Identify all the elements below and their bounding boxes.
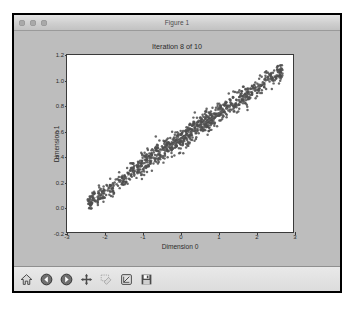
scatter-plot-svg [67,55,293,232]
y-tick-label: 0.2 [56,180,67,186]
y-tick-label: 0.8 [56,103,67,109]
plot-title: Iteration 8 of 10 [14,42,340,51]
navigation-toolbar [14,266,340,291]
y-tick-label: 1.0 [56,78,67,84]
x-tick-label: 3 [293,232,296,240]
x-tick-label: 2 [255,232,258,240]
plot-axes[interactable]: 1.2 1.0 0.8 0.6 0.4 0.2 0.0 -0.2 -3 -2 -… [66,54,294,233]
figure-window: Figure 1 Iteration 8 of 10 1.2 1.0 0.8 0… [12,13,342,293]
x-axis-label: Dimension 0 [66,243,294,250]
scatter-points [87,64,284,210]
save-disk-icon[interactable] [138,271,155,288]
window-title: Figure 1 [14,15,340,30]
forward-arrow-icon[interactable] [58,271,75,288]
y-tick-label: 1.2 [56,52,67,58]
x-tick-label: 0 [179,232,182,240]
x-tick-label: -2 [102,232,107,240]
back-arrow-icon[interactable] [38,271,55,288]
x-tick-label: -1 [140,232,145,240]
x-tick-label: -3 [64,232,69,240]
pan-move-icon[interactable] [78,271,95,288]
y-tick-label: 0.0 [56,205,67,211]
window-titlebar: Figure 1 [14,15,340,31]
figure-canvas: Iteration 8 of 10 1.2 1.0 0.8 0.6 0.4 0.… [14,31,340,266]
home-icon[interactable] [18,271,35,288]
y-axis-label: Dimension 1 [53,125,60,162]
zoom-rect-icon[interactable] [98,271,115,288]
x-tick-label: 1 [217,232,220,240]
configure-subplots-icon[interactable] [118,271,135,288]
